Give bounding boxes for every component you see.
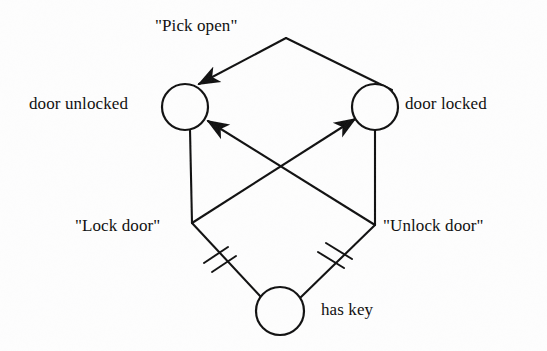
diagram-canvas: "Pick open" door unlocked door locked "L… [0,0,547,351]
edge-unlock-door-diagonal-arrow [208,121,375,225]
tick-marks-left [204,247,236,272]
edge-right-vertex-to-has-key [300,225,375,298]
edge-pick-open [199,38,392,90]
edge-label-pick-open: "Pick open" [155,16,238,36]
edge-left-vertex-to-has-key [192,223,261,297]
state-diagram-graphic [0,0,547,351]
edge-label-lock-door: "Lock door" [75,216,160,236]
node-label-door-locked: door locked [405,94,487,114]
node-has-key[interactable] [256,287,304,335]
node-door-unlocked[interactable] [162,84,208,130]
edge-pick-open-segment-left-arrow [199,38,286,84]
edge-lock-door-diagonal-arrow [192,119,355,223]
edge-unlocked-to-left-vertex [190,130,192,223]
node-label-has-key: has key [321,300,373,320]
edge-pick-open-segment-right [286,38,392,90]
edge-label-unlock-door: "Unlock door" [383,216,484,236]
node-door-locked[interactable] [352,84,398,130]
node-label-door-unlocked: door unlocked [29,94,128,114]
